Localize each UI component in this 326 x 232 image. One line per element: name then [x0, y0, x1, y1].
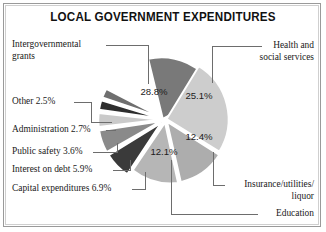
callout-education: Education	[230, 208, 314, 220]
callout-public-safety: Public safety 3.6%	[12, 146, 96, 158]
slice-label-health-and-social-services: 25.1%	[185, 90, 213, 101]
callout-other: Other 2.5%	[12, 96, 76, 108]
callout-intergovernmental-grants: Intergovernmental grants	[12, 39, 108, 62]
slice-label-intergovernmental-grants: 28.8%	[140, 86, 168, 97]
chart-figure: LOCAL GOVERNMENT EXPENDITURES 28.8%	[0, 0, 326, 232]
callout-insurance-utilities-liquor: Insurance/utilities/ liquor	[196, 179, 314, 202]
pie-slices	[98, 57, 228, 183]
slice-label-insurance-utilities-liquor: 12.4%	[185, 131, 213, 142]
callout-administration: Administration 2.7%	[12, 124, 108, 136]
callout-health-and-social-services: Health and social services	[198, 40, 314, 63]
slice-label-education: 12.1%	[150, 146, 178, 157]
leader-line-intergovernmental-grants	[106, 45, 148, 84]
callout-interest-on-debt: Interest on debt 5.9%	[12, 164, 116, 176]
callout-capital-expenditures: Capital expenditures 6.9%	[12, 183, 136, 195]
